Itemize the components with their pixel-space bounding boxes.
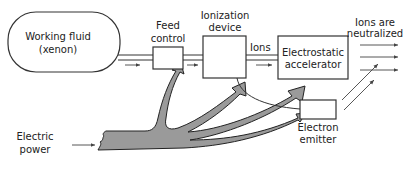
ions-label: Ions	[250, 42, 271, 53]
fluid-pipe-2	[183, 55, 203, 65]
ion-beam-arrows	[360, 45, 398, 70]
electric-power-label: Electric	[16, 131, 53, 142]
ion-pipe	[246, 55, 278, 65]
feed-control-label: Feed	[156, 20, 180, 31]
electric-power-band	[98, 64, 306, 150]
ionization-device-box	[203, 36, 246, 78]
ionization-device-label: Ionization	[201, 10, 250, 21]
feed-control-sublabel: control	[151, 33, 186, 44]
ions-neutralized-sublabel: neutralized	[347, 28, 403, 39]
ions-neutralized-label: Ions are	[355, 17, 395, 28]
working-fluid-label: Working fluid	[25, 31, 91, 42]
diagram-canvas: Working fluid (xenon) Feed control Ioniz…	[0, 0, 411, 171]
fluid-pipe-1	[118, 55, 153, 65]
electron-emitter-label: Electron	[297, 122, 338, 133]
working-fluid-sublabel: (xenon)	[39, 44, 77, 55]
electron-emitter-box	[300, 100, 336, 119]
electric-power-sublabel: power	[20, 144, 52, 155]
feed-control-box	[153, 47, 183, 69]
accelerator-label: Electrostatic	[282, 47, 344, 58]
ionization-device-sublabel: device	[209, 22, 242, 33]
electron-emitter-sublabel: emitter	[300, 134, 338, 145]
working-fluid-tank	[8, 12, 120, 72]
accelerator-sublabel: accelerator	[285, 59, 342, 70]
